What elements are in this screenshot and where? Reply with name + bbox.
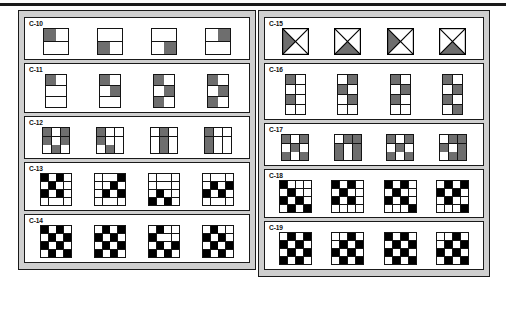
cell-empty bbox=[288, 181, 295, 188]
figure-grid bbox=[148, 225, 181, 258]
cell-filled bbox=[154, 75, 164, 85]
cell-empty bbox=[437, 233, 444, 240]
cell-empty bbox=[437, 257, 444, 264]
cell-empty bbox=[64, 190, 71, 197]
cell-empty bbox=[385, 241, 392, 248]
cell-empty bbox=[203, 226, 210, 233]
cell-filled bbox=[95, 234, 102, 241]
cell-empty bbox=[409, 249, 416, 256]
figure-row bbox=[29, 28, 245, 56]
cell-empty bbox=[437, 181, 444, 188]
cell-empty bbox=[340, 181, 347, 188]
cell-empty bbox=[218, 174, 225, 181]
cell-filled bbox=[288, 205, 295, 212]
cell-empty bbox=[118, 250, 125, 257]
cell-empty bbox=[44, 42, 56, 54]
figure-row bbox=[29, 127, 245, 156]
cell-empty bbox=[157, 174, 164, 181]
cell-empty bbox=[154, 86, 164, 96]
cell-empty bbox=[300, 144, 308, 152]
cell-empty bbox=[396, 135, 404, 143]
cell-filled bbox=[205, 137, 213, 145]
cell-empty bbox=[304, 181, 311, 188]
group-label: C-11 bbox=[29, 65, 245, 74]
figure-row bbox=[29, 173, 245, 207]
cell-filled bbox=[44, 29, 56, 41]
shaded-triangle bbox=[439, 42, 466, 56]
cell-empty bbox=[164, 234, 171, 241]
cell-empty bbox=[64, 226, 71, 233]
figure-cross bbox=[439, 28, 466, 55]
cell-filled bbox=[56, 190, 63, 197]
cell-empty bbox=[340, 249, 347, 256]
cell-filled bbox=[348, 249, 355, 256]
cell-empty bbox=[103, 182, 110, 189]
cell-empty bbox=[164, 242, 171, 249]
cell-filled bbox=[391, 95, 400, 104]
cell-filled bbox=[391, 75, 400, 84]
cell-empty bbox=[445, 249, 452, 256]
cell-empty bbox=[49, 174, 56, 181]
cell-empty bbox=[118, 198, 125, 205]
cell-filled bbox=[353, 135, 361, 143]
cell-filled bbox=[288, 189, 295, 196]
cell-filled bbox=[97, 128, 105, 136]
cell-empty bbox=[226, 190, 233, 197]
cell-filled bbox=[211, 182, 218, 189]
cell-empty bbox=[151, 145, 159, 153]
figure-group-c-11: C-11 bbox=[24, 63, 250, 113]
cell-empty bbox=[110, 226, 117, 233]
cell-filled bbox=[461, 181, 468, 188]
cell-filled bbox=[348, 233, 355, 240]
group-label: C-10 bbox=[29, 19, 245, 28]
figure-grid bbox=[42, 127, 70, 155]
cell-empty bbox=[391, 105, 400, 114]
figure-row bbox=[269, 134, 479, 163]
cell-empty bbox=[304, 257, 311, 264]
figure-grid bbox=[436, 232, 469, 265]
cell-empty bbox=[106, 137, 114, 145]
cell-filled bbox=[453, 85, 462, 94]
cell-empty bbox=[332, 189, 339, 196]
cell-filled bbox=[97, 137, 105, 145]
cell-empty bbox=[157, 198, 164, 205]
cell-empty bbox=[304, 189, 311, 196]
cell-empty bbox=[164, 75, 174, 85]
cell-empty bbox=[409, 181, 416, 188]
cell-empty bbox=[172, 234, 179, 241]
cell-empty bbox=[211, 190, 218, 197]
cell-filled bbox=[304, 233, 311, 240]
cell-filled bbox=[296, 257, 303, 264]
cell-filled bbox=[208, 75, 218, 85]
cell-empty bbox=[218, 242, 225, 249]
cell-empty bbox=[296, 189, 303, 196]
cell-empty bbox=[64, 174, 71, 181]
cell-empty bbox=[453, 181, 460, 188]
figure-grid bbox=[94, 225, 127, 258]
cell-filled bbox=[49, 250, 56, 257]
figure-group-c-13: C-13 bbox=[24, 162, 250, 211]
figure-grid bbox=[151, 28, 178, 55]
figure-grid bbox=[384, 232, 417, 265]
cell-empty bbox=[110, 190, 117, 197]
cell-empty bbox=[206, 29, 218, 41]
cell-empty bbox=[95, 182, 102, 189]
cell-empty bbox=[115, 137, 123, 145]
cell-filled bbox=[385, 197, 392, 204]
cell-empty bbox=[332, 241, 339, 248]
cell-filled bbox=[401, 197, 408, 204]
cell-empty bbox=[61, 145, 69, 153]
figure-group-c-17: C-17 bbox=[264, 123, 484, 167]
figure-grid bbox=[439, 134, 467, 162]
cell-empty bbox=[356, 197, 363, 204]
figure-grid bbox=[99, 74, 122, 108]
cell-filled bbox=[49, 182, 56, 189]
cell-empty bbox=[203, 242, 210, 249]
figure-group-c-10: C-10 bbox=[24, 17, 250, 60]
cell-filled bbox=[41, 242, 48, 249]
cell-empty bbox=[64, 198, 71, 205]
cell-filled bbox=[110, 86, 120, 96]
cell-empty bbox=[304, 197, 311, 204]
cell-empty bbox=[56, 234, 63, 241]
cell-empty bbox=[288, 257, 295, 264]
